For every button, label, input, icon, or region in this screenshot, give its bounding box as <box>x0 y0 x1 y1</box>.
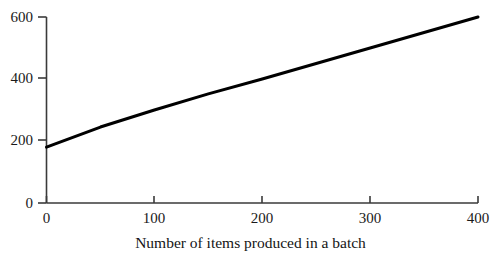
y-tick-label-200: 200 <box>0 132 33 148</box>
x-tick-label-200: 200 <box>251 210 274 226</box>
x-tick-label-400: 400 <box>467 210 490 226</box>
data-series-line <box>47 17 479 147</box>
x-tick-label-0: 0 <box>43 210 51 226</box>
line-chart: 600 400 200 0 0 100 200 300 400 Number o… <box>0 0 501 260</box>
x-tick-label-100: 100 <box>143 210 166 226</box>
y-tick-label-400: 400 <box>0 70 33 86</box>
x-axis-title: Number of items produced in a batch <box>0 234 501 252</box>
y-tick-label-0: 0 <box>0 195 33 211</box>
y-tick-label-600: 600 <box>0 9 33 25</box>
y-axis-ticks <box>38 17 47 203</box>
x-tick-label-300: 300 <box>359 210 382 226</box>
x-axis-ticks <box>47 196 479 203</box>
